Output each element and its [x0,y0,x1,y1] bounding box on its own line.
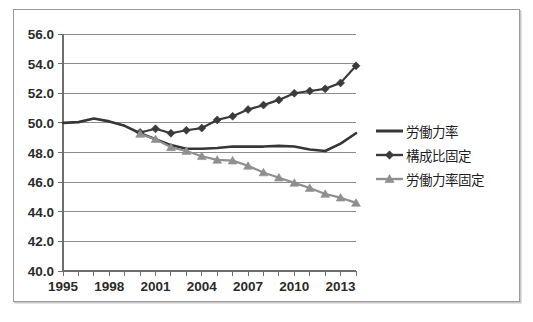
legend-item-2: 労働力率固定 [376,172,484,188]
marker-diamond-1-4 [198,124,206,132]
marker-diamond-1-2 [167,129,175,137]
gridlines [63,34,356,241]
series-労働力率固定 [136,130,361,206]
y-tick-label-42.0: 42.0 [28,234,54,249]
x-tick-label-2007: 2007 [233,279,263,294]
legend-label-2: 労働力率固定 [406,172,484,188]
y-axis-tick-labels: 40.042.044.046.048.050.052.054.056.0 [28,27,54,279]
y-axis [58,34,63,271]
x-tick-label-2010: 2010 [279,279,309,294]
marker-diamond-1-1 [152,125,160,133]
y-tick-label-54.0: 54.0 [28,57,54,72]
x-tick-label-2013: 2013 [326,279,357,294]
series-構成比固定 [136,62,360,137]
y-tick-label-48.0: 48.0 [28,146,54,161]
legend-label-0: 労働力率 [406,124,458,140]
marker-diamond-1-10 [290,89,298,97]
y-tick-label-46.0: 46.0 [28,175,54,190]
chart-frame: 40.042.044.046.048.050.052.054.056.0 199… [13,9,520,302]
y-tick-label-40.0: 40.0 [28,264,54,279]
marker-diamond-1-8 [259,101,267,109]
marker-diamond-1-6 [229,112,237,120]
marker-diamond-1-12 [321,85,329,93]
x-tick-label-2004: 2004 [187,279,218,294]
marker-diamond-1-7 [244,106,252,114]
marker-diamond-1-9 [275,96,283,104]
y-tick-label-56.0: 56.0 [28,27,54,42]
x-tick-label-1995: 1995 [48,279,79,294]
legend-label-1: 構成比固定 [406,148,471,164]
x-axis [63,271,356,276]
x-axis-tick-labels: 1995199820012004200720102013 [48,279,356,294]
line-chart: 40.042.044.046.048.050.052.054.056.0 199… [14,10,521,303]
y-tick-label-50.0: 50.0 [28,116,54,131]
chart-legend: 労働力率構成比固定労働力率固定 [376,124,484,188]
y-tick-label-52.0: 52.0 [28,86,54,101]
marker-diamond-1-11 [306,87,314,95]
x-tick-label-1998: 1998 [94,279,125,294]
marker-diamond-legend-1 [385,151,393,159]
x-tick-label-2001: 2001 [141,279,172,294]
series-plot-area [63,62,360,206]
legend-item-1: 構成比固定 [376,148,471,164]
legend-item-0: 労働力率 [376,124,458,140]
marker-diamond-1-3 [182,126,190,134]
y-tick-label-44.0: 44.0 [28,205,54,220]
